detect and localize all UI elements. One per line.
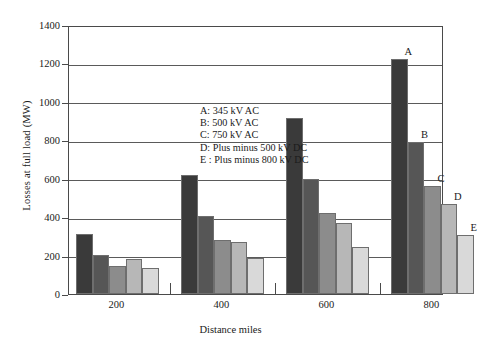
plot-area: ABCDE A: 345 kV AC B: 500 kV AC C: 750 k… xyxy=(68,26,443,295)
bar-annotation-E: E xyxy=(471,223,477,234)
bar-600-D xyxy=(336,223,353,294)
legend-item-c: C: 750 kV AC xyxy=(200,129,309,141)
y-tick-0: 0 xyxy=(4,290,60,301)
y-tick-400: 400 xyxy=(4,213,60,224)
bar-400-D xyxy=(231,242,248,294)
legend-item-e: E : Plus minus 800 kV DC xyxy=(200,154,309,166)
bar-group-200 xyxy=(76,27,159,294)
x-tick-600: 600 xyxy=(296,300,356,311)
bar-800-E xyxy=(457,235,474,294)
bar-400-B xyxy=(198,216,215,294)
x-tick-800: 800 xyxy=(401,300,461,311)
bar-600-C xyxy=(319,213,336,294)
bar-200-D xyxy=(126,259,143,294)
bar-400-C xyxy=(214,240,231,294)
bar-400-E xyxy=(247,258,264,295)
bar-800-A xyxy=(391,59,408,294)
bar-800-B xyxy=(408,142,425,294)
y-tick-mark-0 xyxy=(62,295,68,296)
bar-200-E xyxy=(142,268,159,294)
bar-600-B xyxy=(303,179,320,294)
y-axis-tick-labels: 0200400600800100012001400 xyxy=(0,0,68,352)
bar-400-A xyxy=(181,175,198,294)
bar-800-C xyxy=(424,186,441,294)
x-tick-400: 400 xyxy=(191,300,251,311)
bar-200-C xyxy=(109,266,126,294)
bar-200-B xyxy=(93,255,110,294)
separator-tick-0 xyxy=(170,283,171,294)
separator-tick-1 xyxy=(275,283,276,294)
bar-600-E xyxy=(352,247,369,294)
legend-item-a: A: 345 kV AC xyxy=(200,105,309,117)
bar-200-A xyxy=(76,234,93,294)
bar-annotation-C: C xyxy=(438,174,445,185)
x-axis-title: Distance miles xyxy=(0,324,461,335)
legend: A: 345 kV AC B: 500 kV AC C: 750 kV AC D… xyxy=(200,105,309,166)
y-tick-600: 600 xyxy=(4,175,60,186)
y-tick-200: 200 xyxy=(4,252,60,263)
bar-annotation-B: B xyxy=(421,130,428,141)
bar-annotation-A: A xyxy=(405,47,413,58)
y-tick-1200: 1200 xyxy=(4,59,60,70)
legend-item-d: D: Plus minus 500 kV DC xyxy=(200,142,309,154)
y-tick-800: 800 xyxy=(4,136,60,147)
bar-annotation-D: D xyxy=(454,192,462,203)
bar-group-800: ABCDE xyxy=(391,27,474,294)
x-tick-200: 200 xyxy=(86,300,146,311)
legend-item-b: B: 500 kV AC xyxy=(200,117,309,129)
y-tick-1000: 1000 xyxy=(4,98,60,109)
separator-tick-2 xyxy=(380,283,381,294)
y-tick-1400: 1400 xyxy=(4,21,60,32)
bar-800-D xyxy=(441,204,458,294)
